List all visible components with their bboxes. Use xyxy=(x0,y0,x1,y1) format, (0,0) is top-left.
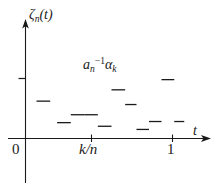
x-axis-tick-label-kn: k/n xyxy=(79,142,97,157)
annotation-alpha-sub: k xyxy=(112,64,116,74)
plot-canvas xyxy=(0,0,219,183)
y-axis-label-arg: (t) xyxy=(39,7,52,22)
x-axis xyxy=(8,135,211,142)
annotation-a: a xyxy=(83,57,90,72)
x-axis-tick-label-one: 1 xyxy=(167,142,175,157)
annotation-a-sup: −1 xyxy=(95,56,105,66)
x-axis-tick-label-origin: 0 xyxy=(12,142,20,157)
y-axis-label: ζn(t) xyxy=(29,8,53,24)
annotation-level-label: an−1αk xyxy=(83,57,116,74)
y-axis xyxy=(22,19,29,183)
step-segments-group xyxy=(37,80,185,130)
figure-step-function: ζn(t) t 0 k/n 1 an−1αk xyxy=(0,0,219,183)
x-axis-label: t xyxy=(193,124,197,138)
